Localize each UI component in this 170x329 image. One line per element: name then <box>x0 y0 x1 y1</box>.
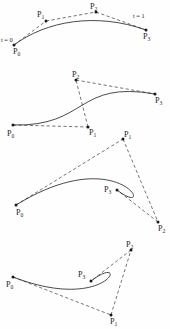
curve-2-label-p3: P3 <box>155 96 163 106</box>
bezier-curve-1-group: P0 P1 P2 P3 t = 0 t = 1 <box>1 2 151 57</box>
bezier-curve-3-group: P0 P1 P2 P3 <box>15 130 166 234</box>
curve-2-hull-p1-p2 <box>76 80 88 127</box>
curve-1-label-p3: P3 <box>143 32 151 42</box>
curve-4-point-p0 <box>12 276 15 279</box>
curve-1-hull-p1-p2 <box>46 12 96 21</box>
curve-3-label-p1: P1 <box>124 130 132 140</box>
curve-2-point-p0 <box>12 124 15 127</box>
curve-3-hull-p0-p1 <box>16 139 123 205</box>
curve-1-annotation-t-start: t = 0 <box>1 36 13 43</box>
curve-2-path <box>13 91 155 125</box>
bezier-curve-4-group: P0 P1 P2 P3 <box>6 240 134 327</box>
curve-1-label-p2: P2 <box>90 2 98 12</box>
curve-2-label-p0: P0 <box>7 129 15 139</box>
curve-1-point-p1 <box>45 20 48 23</box>
curve-4-path <box>13 272 110 289</box>
curve-3-path <box>16 179 134 205</box>
curve-3-label-p2: P2 <box>158 224 166 234</box>
curve-3-label-p0: P0 <box>16 208 24 218</box>
curve-1-label-p0: P0 <box>13 47 21 57</box>
bezier-curve-2-group: P0 P1 P2 P3 <box>7 70 163 139</box>
curve-2-label-p2: P2 <box>72 70 80 80</box>
curve-3-label-p3: P3 <box>104 185 112 195</box>
curve-3-point-p0 <box>15 204 18 207</box>
curve-4-label-p2: P2 <box>126 240 134 250</box>
curve-4-point-p3 <box>90 280 93 283</box>
curve-3-hull-p1-p2 <box>123 139 158 222</box>
curve-1-annotation-t-end: t = 1 <box>133 12 145 19</box>
curve-2-label-p1: P1 <box>89 128 97 138</box>
curve-4-label-p0: P0 <box>6 280 14 290</box>
curve-1-path <box>14 20 146 45</box>
curve-1-label-p1: P1 <box>37 10 45 20</box>
curve-3-point-p3 <box>116 189 119 192</box>
curve-4-hull-p1-p2 <box>111 250 131 315</box>
curve-4-label-p1: P1 <box>110 317 118 327</box>
bezier-figure-canvas: P0 P1 P2 P3 t = 0 t = 1 <box>0 0 170 329</box>
curve-4-label-p3: P3 <box>78 270 86 280</box>
bezier-figure: P0 P1 P2 P3 t = 0 t = 1 <box>0 0 170 329</box>
curve-4-hull-p0-p1 <box>13 277 111 315</box>
